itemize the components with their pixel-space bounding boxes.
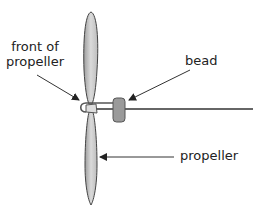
label-propeller: propeller <box>180 148 238 163</box>
label-bead: bead <box>185 53 217 68</box>
propeller-diagram: front of propeller bead propeller <box>0 0 262 215</box>
propeller-blade-top <box>84 12 98 104</box>
label-front-line2: propeller <box>4 54 66 69</box>
bead <box>113 98 125 122</box>
label-front-line1: front of <box>4 39 66 54</box>
arrow-bead <box>129 70 190 100</box>
label-front-of-propeller: front of propeller <box>4 39 66 69</box>
arrow-front-of-propeller <box>37 75 79 100</box>
diagram-canvas <box>0 0 262 215</box>
propeller-blade-bottom <box>85 112 97 205</box>
